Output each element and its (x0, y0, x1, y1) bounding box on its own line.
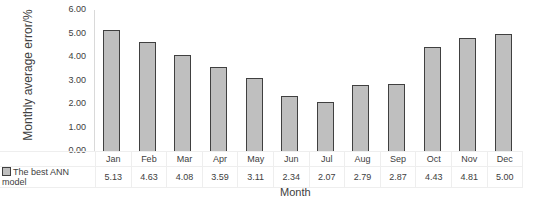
bar-aug (352, 85, 369, 151)
value-cell: 4.63 (131, 167, 167, 188)
value-cell: 4.81 (451, 167, 487, 188)
value-row: The best ANN model 5.134.634.083.593.112… (0, 167, 523, 188)
category-label: May (238, 152, 274, 167)
y-tick-label: 2.00 (52, 98, 86, 108)
category-row-header (0, 152, 96, 167)
y-tick-label: 4.00 (52, 51, 86, 61)
bar-mar (174, 55, 191, 151)
category-label: Apr (202, 152, 238, 167)
value-cell: 4.08 (167, 167, 203, 188)
value-cell: 2.79 (345, 167, 381, 188)
y-tick-label: 6.00 (52, 4, 86, 14)
y-tick-label: 5.00 (52, 28, 86, 38)
category-label: Jun (273, 152, 309, 167)
category-label: Sep (380, 152, 416, 167)
bar-jan (103, 30, 120, 151)
bar-jun (281, 96, 298, 151)
value-cell: 2.07 (309, 167, 345, 188)
bar-feb (139, 42, 156, 151)
category-label: Dec (487, 152, 523, 167)
category-label: Feb (131, 152, 167, 167)
x-axis-title: Month (280, 186, 311, 198)
y-tick-label: 3.00 (52, 75, 86, 85)
y-tick-label: 1.00 (52, 122, 86, 132)
bar-apr (210, 67, 227, 151)
category-label: Oct (416, 152, 452, 167)
bar-jul (317, 102, 334, 151)
bar-nov (459, 38, 476, 151)
data-table: JanFebMarAprMayJunJulAugSepOctNovDec The… (0, 151, 523, 188)
plot-area (94, 10, 521, 151)
bar-oct (424, 47, 441, 151)
value-cell: 3.59 (202, 167, 238, 188)
category-label: Nov (451, 152, 487, 167)
category-row: JanFebMarAprMayJunJulAugSepOctNovDec (0, 152, 523, 167)
value-cell: 2.34 (273, 167, 309, 188)
legend-entry: The best ANN model (0, 167, 96, 188)
category-label: Aug (345, 152, 381, 167)
legend-swatch-icon (2, 167, 11, 176)
value-cell: 2.87 (380, 167, 416, 188)
value-cell: 3.11 (238, 167, 274, 188)
category-label: Jul (309, 152, 345, 167)
value-cell: 4.43 (416, 167, 452, 188)
value-cell: 5.13 (96, 167, 132, 188)
bar-sep (388, 84, 405, 151)
category-label: Mar (167, 152, 203, 167)
bar-may (246, 78, 263, 151)
value-cell: 5.00 (487, 167, 523, 188)
category-label: Jan (96, 152, 132, 167)
legend-label: The best ANN model (2, 167, 69, 187)
bar-dec (495, 34, 512, 152)
y-axis-title: Monthly average error/% (21, 0, 35, 155)
